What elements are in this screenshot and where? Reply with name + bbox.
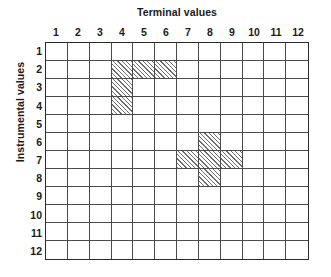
row-header-12: 12: [22, 242, 43, 260]
grid-cell: [199, 43, 221, 61]
grid-cell: [221, 97, 243, 115]
grid-cell: [133, 241, 155, 259]
grid-cell: [46, 169, 68, 187]
grid-cell: [221, 169, 243, 187]
grid-cell: [133, 169, 155, 187]
grid-cell: [264, 79, 286, 97]
grid-cell: [90, 223, 112, 241]
grid-cell: [112, 205, 134, 223]
grid-cell: [90, 115, 112, 133]
grid-cell: [112, 133, 134, 151]
column-header-6: 6: [155, 24, 177, 40]
grid-cell: [177, 187, 199, 205]
grid-cell: [90, 61, 112, 79]
grid-cell: [264, 61, 286, 79]
column-header-12: 12: [287, 24, 309, 40]
grid-cell-filled: [155, 61, 177, 79]
row-header-4: 4: [22, 97, 43, 115]
grid-cell: [264, 223, 286, 241]
grid-cell: [155, 115, 177, 133]
grid-cell-filled: [177, 151, 199, 169]
column-header-4: 4: [111, 24, 133, 40]
grid-cell: [112, 241, 134, 259]
grid-cell: [155, 133, 177, 151]
grid-cell: [68, 187, 90, 205]
grid-container: [45, 42, 309, 260]
grid-cell: [221, 43, 243, 61]
grid-cell: [286, 115, 308, 133]
grid-cell: [112, 43, 134, 61]
column-header-7: 7: [177, 24, 199, 40]
grid-cell: [221, 115, 243, 133]
grid-cell: [112, 115, 134, 133]
row-header-11: 11: [22, 224, 43, 242]
column-header-1: 1: [45, 24, 67, 40]
column-header-10: 10: [243, 24, 265, 40]
grid-cell: [90, 205, 112, 223]
grid-cell: [199, 223, 221, 241]
grid-cell: [199, 241, 221, 259]
grid-cell: [177, 241, 199, 259]
grid-cell: [68, 169, 90, 187]
grid-cell: [46, 151, 68, 169]
grid-cell: [243, 223, 265, 241]
grid-cell: [133, 205, 155, 223]
grid-cell: [112, 187, 134, 205]
row-header-column: 123456789101112: [22, 42, 43, 260]
grid-cell: [286, 151, 308, 169]
grid-cell: [112, 223, 134, 241]
grid-cell: [286, 133, 308, 151]
grid-cell: [68, 43, 90, 61]
grid-cell: [286, 205, 308, 223]
grid-cell: [46, 223, 68, 241]
grid-cell: [68, 241, 90, 259]
grid-cell: [155, 43, 177, 61]
grid-cell: [133, 115, 155, 133]
grid-cell: [243, 43, 265, 61]
grid-cell: [177, 43, 199, 61]
grid-cell: [68, 115, 90, 133]
grid-cell: [221, 61, 243, 79]
grid-cell: [199, 205, 221, 223]
column-header-2: 2: [67, 24, 89, 40]
grid-cell: [46, 205, 68, 223]
grid-figure: Terminal values Instrumental values 1234…: [0, 0, 331, 277]
grid-cell: [90, 97, 112, 115]
grid-cell: [90, 151, 112, 169]
grid-cell: [199, 115, 221, 133]
grid-cell-filled: [199, 169, 221, 187]
grid-cell: [68, 223, 90, 241]
row-header-9: 9: [22, 187, 43, 205]
grid-cell: [243, 169, 265, 187]
grid-cell: [243, 133, 265, 151]
grid-cell: [243, 151, 265, 169]
row-header-10: 10: [22, 206, 43, 224]
grid-cell: [46, 43, 68, 61]
grid-cell-filled: [199, 133, 221, 151]
grid-cell: [155, 241, 177, 259]
grid-cell: [221, 223, 243, 241]
grid-cell: [177, 115, 199, 133]
grid-cell: [264, 241, 286, 259]
grid-cell: [199, 97, 221, 115]
grid-cell: [133, 223, 155, 241]
grid-cell: [286, 79, 308, 97]
row-header-6: 6: [22, 133, 43, 151]
column-header-3: 3: [89, 24, 111, 40]
grid-cell: [133, 151, 155, 169]
row-header-1: 1: [22, 42, 43, 60]
grid-cell: [155, 79, 177, 97]
grid-cell: [112, 169, 134, 187]
grid-cell: [155, 151, 177, 169]
grid-cell: [46, 187, 68, 205]
x-axis-title: Terminal values: [45, 6, 309, 18]
grid-cell: [46, 61, 68, 79]
grid-cell: [243, 187, 265, 205]
grid-cell: [68, 79, 90, 97]
grid-cell: [221, 133, 243, 151]
grid-cell: [68, 61, 90, 79]
grid-cell: [177, 61, 199, 79]
grid-cell-filled: [133, 61, 155, 79]
grid-cell: [286, 187, 308, 205]
grid-cell: [177, 133, 199, 151]
